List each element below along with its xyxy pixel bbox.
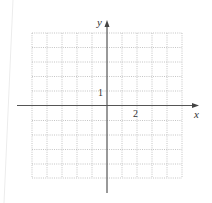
page-edge-line <box>4 0 13 203</box>
y-axis-arrow-icon <box>105 20 110 27</box>
x-axis-label: x <box>193 108 199 120</box>
y-axis-label: y <box>96 16 102 28</box>
x-tick-label: 2 <box>133 108 138 119</box>
x-axis <box>17 103 199 108</box>
coordinate-plane: y x 2 1 <box>0 0 212 203</box>
y-tick-label: 1 <box>98 87 103 98</box>
y-axis <box>105 20 110 193</box>
